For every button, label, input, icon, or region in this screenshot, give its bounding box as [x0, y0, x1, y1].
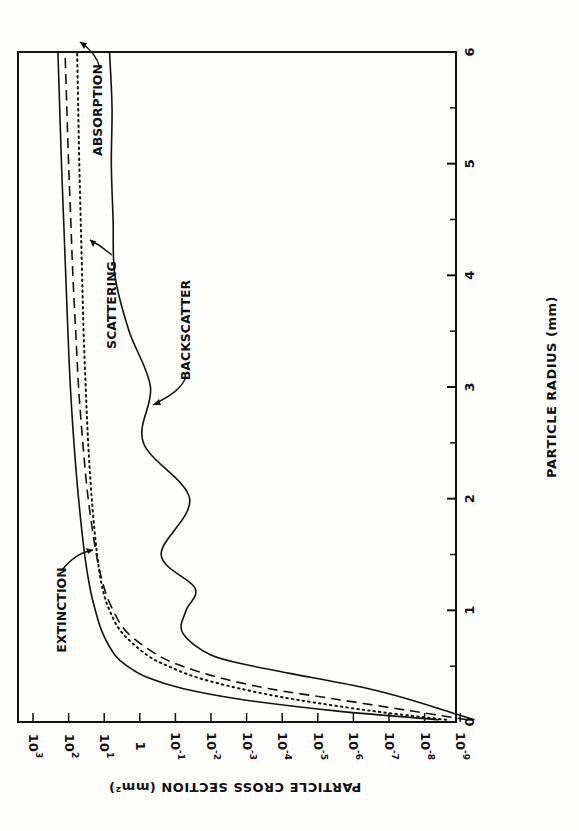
svg-text:10-1: 10-1	[168, 732, 186, 760]
svg-text:102: 102	[62, 734, 80, 758]
cross-section-chart: 0123456 103102101110-110-210-310-410-510…	[0, 0, 579, 831]
radius-tick-label: 5	[462, 159, 477, 168]
plot-frame	[18, 52, 456, 722]
svg-text:10-8: 10-8	[418, 732, 436, 760]
radius-tick-label: 6	[462, 47, 477, 56]
radius-tick-label: 1	[462, 606, 477, 615]
backscatter-curve	[110, 52, 475, 720]
cross-section-tick-label: 10-7	[382, 732, 400, 760]
cross-section-tick-label: 10-9	[453, 732, 471, 760]
svg-text:103: 103	[26, 734, 44, 758]
radius-tick-label: 4	[462, 271, 477, 280]
svg-text:10-7: 10-7	[382, 732, 400, 760]
cross-section-tick-label: 101	[97, 734, 115, 758]
cross-section-tick-label: 10-5	[311, 732, 329, 760]
cross-section-tick-label: 10-1	[168, 732, 186, 760]
svg-text:10-2: 10-2	[204, 732, 222, 760]
extinction-curve	[58, 52, 439, 720]
curves	[58, 52, 475, 720]
cross-section-axis-title: PARTICLE CROSS SECTION (mm²)	[109, 780, 362, 795]
backscatter-label: BACKSCATTER	[178, 279, 193, 380]
cross-section-tick-label: 10-6	[346, 732, 364, 760]
svg-text:10-3: 10-3	[240, 732, 258, 760]
radius-axis-title: PARTICLE RADIUS (mm)	[544, 296, 559, 478]
scattering-curve	[65, 52, 467, 720]
absorption-curve	[77, 52, 446, 720]
svg-text:101: 101	[97, 734, 115, 758]
cross-section-tick-label: 10-3	[240, 732, 258, 760]
radius-tick-label: 3	[462, 382, 477, 391]
svg-text:10-6: 10-6	[346, 732, 364, 760]
cross-section-tick-label: 103	[26, 734, 44, 758]
cross-section-tick-label: 10-4	[275, 732, 293, 760]
radius-axis-ticks: 0123456	[447, 47, 477, 726]
extinction-label: EXTINCTION	[54, 567, 69, 652]
cross-section-tick-label: 10-2	[204, 732, 222, 760]
cross-section-tick-label: 1	[133, 741, 148, 750]
svg-text:10-4: 10-4	[275, 732, 293, 760]
svg-text:10-5: 10-5	[311, 732, 329, 760]
cross-section-axis-ticks: 103102101110-110-210-310-410-510-610-710…	[26, 713, 471, 760]
scattering-label: SCATTERING	[104, 261, 119, 349]
cross-section-tick-label: 10-8	[418, 732, 436, 760]
curve-annotations: EXTINCTIONSCATTERINGABSORPTIONBACKSCATTE…	[54, 42, 193, 653]
cross-section-tick-label: 102	[62, 734, 80, 758]
absorption-label: ABSORPTION	[90, 64, 105, 156]
svg-text:1: 1	[133, 741, 148, 750]
svg-text:10-9: 10-9	[453, 732, 471, 760]
radius-tick-label: 2	[462, 494, 477, 503]
